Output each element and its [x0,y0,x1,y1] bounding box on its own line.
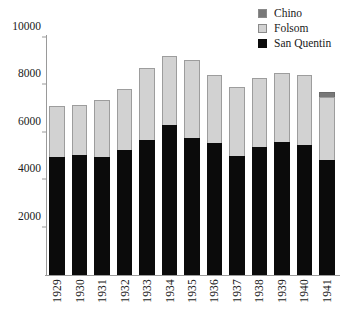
bar-segment-san-quentin [184,138,200,275]
bar-group [184,38,200,275]
bar-group [94,38,110,275]
bar-segment-san-quentin [162,125,178,275]
bar-group [207,38,223,275]
x-axis-tick-label: 1935 [186,279,198,303]
x-axis-tick-label: 1931 [96,279,108,303]
legend-swatch-folsom [258,24,267,33]
y-axis-tick-mark [42,179,46,180]
x-axis-tick-label: 1937 [231,279,243,303]
bar-segment-san-quentin [72,155,88,275]
y-axis-tick-mark [42,37,46,38]
y-axis-tick-mark [42,226,46,227]
bar-group [229,38,245,275]
x-axis-tick-label: 1941 [321,279,333,303]
bar-segment-san-quentin [229,156,245,275]
bar-segment-folsom [139,68,155,140]
y-axis-tick-label: 2000 [18,210,46,222]
bar-group [319,38,335,275]
bar-group [162,38,178,275]
bar-segment-folsom [117,89,133,150]
x-axis-tick-label: 1932 [119,279,131,303]
bar-segment-san-quentin [297,145,313,275]
y-axis-tick-label: 4000 [18,162,46,174]
bar-segment-chino [319,92,335,97]
bar-segment-san-quentin [49,157,65,275]
bar-group [49,38,65,275]
bar-group [252,38,268,275]
x-axis-tick-label: 1929 [51,279,63,303]
y-axis-tick-mark [42,84,46,85]
bar-segment-folsom [49,106,65,157]
plot-area: 200040006000800010000 [46,38,338,275]
bar-segment-san-quentin [274,142,290,275]
bar-segment-san-quentin [252,147,268,275]
bar-segment-san-quentin [117,150,133,275]
y-axis-tick-mark [42,131,46,132]
bar-segment-folsom [297,75,313,145]
legend-swatch-chino [258,9,267,18]
x-axis-tick-label: 1939 [276,279,288,303]
x-axis-tick-label: 1940 [298,279,310,303]
bar-group [139,38,155,275]
legend-label-chino: Chino [274,8,302,19]
bar-segment-folsom [229,87,245,156]
bar-segment-folsom [184,60,200,138]
x-axis-tick-label: 1936 [208,279,220,303]
bar-group [274,38,290,275]
x-axis-line [45,275,340,276]
bar-segment-folsom [207,75,223,143]
bar-group [297,38,313,275]
y-axis-tick-label: 8000 [18,67,46,79]
bar-group [72,38,88,275]
bar-segment-san-quentin [94,157,110,275]
y-axis-tick-label: 6000 [18,115,46,127]
legend-item-chino: Chino [258,6,331,21]
x-axis-tick-label: 1934 [164,279,176,303]
bar-segment-san-quentin [207,143,223,275]
legend-item-folsom: Folsom [258,21,331,36]
x-axis-tick-label: 1933 [141,279,153,303]
y-axis-tick-label: 10000 [12,20,46,32]
x-axis-tick-label: 1938 [253,279,265,303]
x-axis-tick-label: 1930 [74,279,86,303]
bar-segment-san-quentin [319,160,335,275]
bar-segment-folsom [162,56,178,125]
legend-label-folsom: Folsom [274,23,309,34]
bar-segment-folsom [274,73,290,142]
bar-segment-folsom [252,78,268,147]
bar-segment-folsom [94,100,110,157]
bar-segment-san-quentin [139,140,155,275]
bar-segment-folsom [319,97,335,160]
bar-group [117,38,133,275]
bar-segment-folsom [72,105,88,155]
stacked-bar-chart: Chino Folsom San Quentin 200040006000800… [0,0,360,324]
